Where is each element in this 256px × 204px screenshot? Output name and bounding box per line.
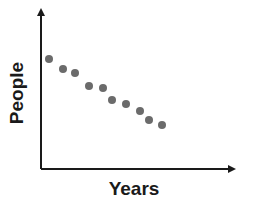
data-point	[99, 84, 107, 92]
y-axis-label: People	[6, 62, 28, 124]
scatter-chart	[0, 0, 256, 204]
x-axis-label: Years	[0, 178, 256, 200]
data-point	[158, 121, 166, 129]
data-point	[59, 65, 67, 73]
data-point	[71, 69, 79, 77]
data-point	[122, 100, 130, 108]
data-point	[145, 116, 153, 124]
data-point	[45, 55, 53, 63]
data-point	[85, 82, 93, 90]
data-point	[108, 96, 116, 104]
data-points	[45, 55, 166, 129]
data-point	[136, 107, 144, 115]
